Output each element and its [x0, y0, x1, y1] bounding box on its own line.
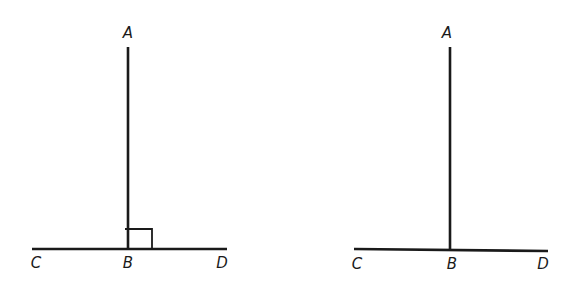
figure-left — [32, 47, 227, 249]
label-b-left: B — [123, 256, 133, 271]
figure-right — [354, 47, 548, 251]
label-a-right: A — [442, 26, 452, 41]
diagram-canvas: A B C D A B C D — [0, 0, 571, 285]
label-b-right: B — [447, 257, 457, 272]
label-d-right: D — [537, 257, 549, 272]
label-d-left: D — [216, 256, 228, 271]
label-a-left: A — [123, 26, 133, 41]
diagram-svg — [0, 0, 571, 285]
label-c-right: C — [352, 257, 362, 272]
label-c-left: C — [31, 256, 41, 271]
